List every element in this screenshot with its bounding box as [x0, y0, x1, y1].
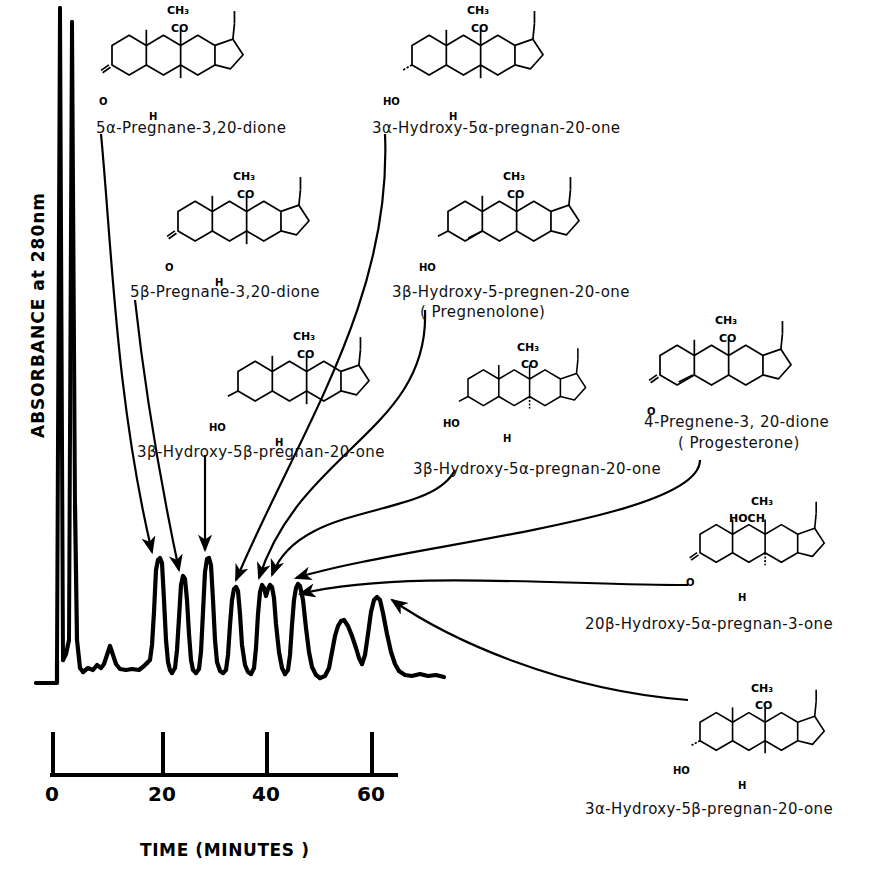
compound-label-3a-hydroxy-5b-pregnan-20-one: 3α-Hydroxy-5β-pregnan-20-one [585, 800, 833, 818]
compound-label-5a-pregnane-3-20-dione: 5α-Pregnane-3,20-dione [96, 119, 286, 137]
atom-label-h: H [738, 592, 746, 603]
atom-label-co: CO [237, 188, 254, 201]
compound-label-progesterone: ( Progesterone) [678, 434, 800, 452]
x-tick-label-20: 20 [148, 782, 176, 806]
atom-label-h: H [503, 433, 511, 444]
atom-label-co: CO [755, 699, 772, 712]
structure-progesterone [649, 321, 791, 385]
compound-label-3b-hydroxy-5a-pregnan-20-one: 3β-Hydroxy-5α-pregnan-20-one [413, 460, 661, 478]
atom-label-ch3: CH₃ [503, 170, 525, 183]
atom-label-ho: HO [673, 765, 690, 776]
atom-label-ho: HO [419, 262, 436, 273]
atom-label-co: CO [171, 22, 188, 35]
y-axis-title: ABSORBANCE at 280nm [28, 192, 48, 438]
atom-label-ch3: CH₃ [517, 341, 539, 354]
x-tick-label-60: 60 [357, 782, 385, 806]
atom-label-ch3: CH₃ [293, 330, 315, 343]
compound-label-3b-hydroxy-5b-pregnan-20-one: 3β-Hydroxy-5β-pregnan-20-one [137, 443, 385, 461]
atom-label-o: O [165, 262, 174, 273]
leader-20b-hydroxy-5a-pregnan-3-one [300, 580, 688, 594]
atom-label-ho: HO [383, 96, 400, 107]
leader-5a-pregnane-dione [101, 134, 152, 552]
x-axis [52, 734, 396, 775]
structure-pregnenolone [438, 177, 579, 241]
compound-label-pregnenolone: ( Pregnenolone) [420, 303, 545, 321]
atom-label-h: H [738, 780, 746, 791]
atom-label-o: O [686, 577, 695, 588]
atom-label-ch3: CH₃ [467, 4, 489, 17]
x-tick-label-0: 0 [45, 782, 59, 806]
atom-label-co: CO [719, 332, 736, 345]
atom-label-ch3: CH₃ [233, 170, 255, 183]
atom-label-ch3: CH₃ [715, 314, 737, 327]
atom-label-co: CO [297, 348, 314, 361]
atom-label-ho: HO [443, 418, 460, 429]
x-axis-title: TIME (MINUTES ) [140, 840, 310, 860]
atom-label-ch3: CH₃ [751, 495, 773, 508]
atom-label-ch3: CH₃ [167, 4, 189, 17]
atom-label-ch3: CH₃ [751, 682, 773, 695]
compound-label-3a-hydroxy-5a-pregnan-20-one: 3α-Hydroxy-5α-pregnan-20-one [372, 119, 620, 137]
compound-label-5b-pregnane-3-20-dione: 5β-Pregnane-3,20-dione [130, 283, 320, 301]
atom-label-co: CO [507, 188, 524, 201]
x-tick-label-40: 40 [252, 782, 280, 806]
compound-label-3b-hydroxy-5-pregnen-20-one: 3β-Hydroxy-5-pregnen-20-one [392, 283, 630, 301]
compound-label-4-pregnene-3-20-dione: 4-Pregnene-3, 20-dione [644, 413, 829, 431]
compound-label-20b-hydroxy-5a-pregnan-3-one: 20β-Hydroxy-5α-pregnan-3-one [585, 615, 833, 633]
leader-3b-hydroxy-5a-pregnan-20-one [272, 470, 455, 575]
chromatogram-figure: CH₃ CO O H CH₃ CO HO H [0, 0, 870, 879]
leader-5b-pregnane-dione [135, 300, 179, 570]
atom-label-co: CO [521, 358, 538, 371]
atom-label-hoch: HOCH [729, 512, 765, 525]
atom-label-o: O [99, 96, 108, 107]
atom-label-co: CO [471, 22, 488, 35]
atom-label-ho: HO [209, 422, 226, 433]
